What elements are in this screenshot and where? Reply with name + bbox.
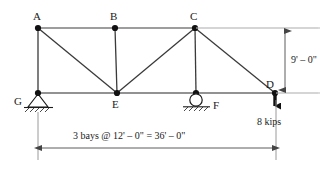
joint-node-A [35,25,41,31]
member-vertical-B-E [115,28,117,93]
joint-node-G [35,90,41,96]
member-vertical-C-F [195,28,196,93]
node-label-G: G [14,96,22,107]
node-label-E: E [112,99,119,110]
node-label-A: A [33,11,41,22]
node-label-B: B [110,11,117,22]
member-diagonal-A-E [38,28,117,93]
pinned-support-icon [24,94,53,112]
member-diagonal-C-D [195,28,275,93]
truss-diagram: A B C D E F G 8 kips 9' – 0" 3 bays @ 12… [0,0,328,171]
vertical-dimension-label: 9' – 0" [291,55,317,65]
truss-drawing-canvas [0,0,328,171]
member-diagonal-E-C [117,28,195,93]
roller-support-icon [183,94,210,111]
joint-node-E [114,90,120,96]
load-label-8-kips: 8 kips [257,117,281,127]
horizontal-dimension-label: 3 bays @ 12' – 0" = 36' – 0" [73,131,185,141]
node-label-D: D [266,79,274,90]
node-label-F: F [213,100,219,111]
joint-node-B [112,25,118,31]
node-label-C: C [190,11,197,22]
